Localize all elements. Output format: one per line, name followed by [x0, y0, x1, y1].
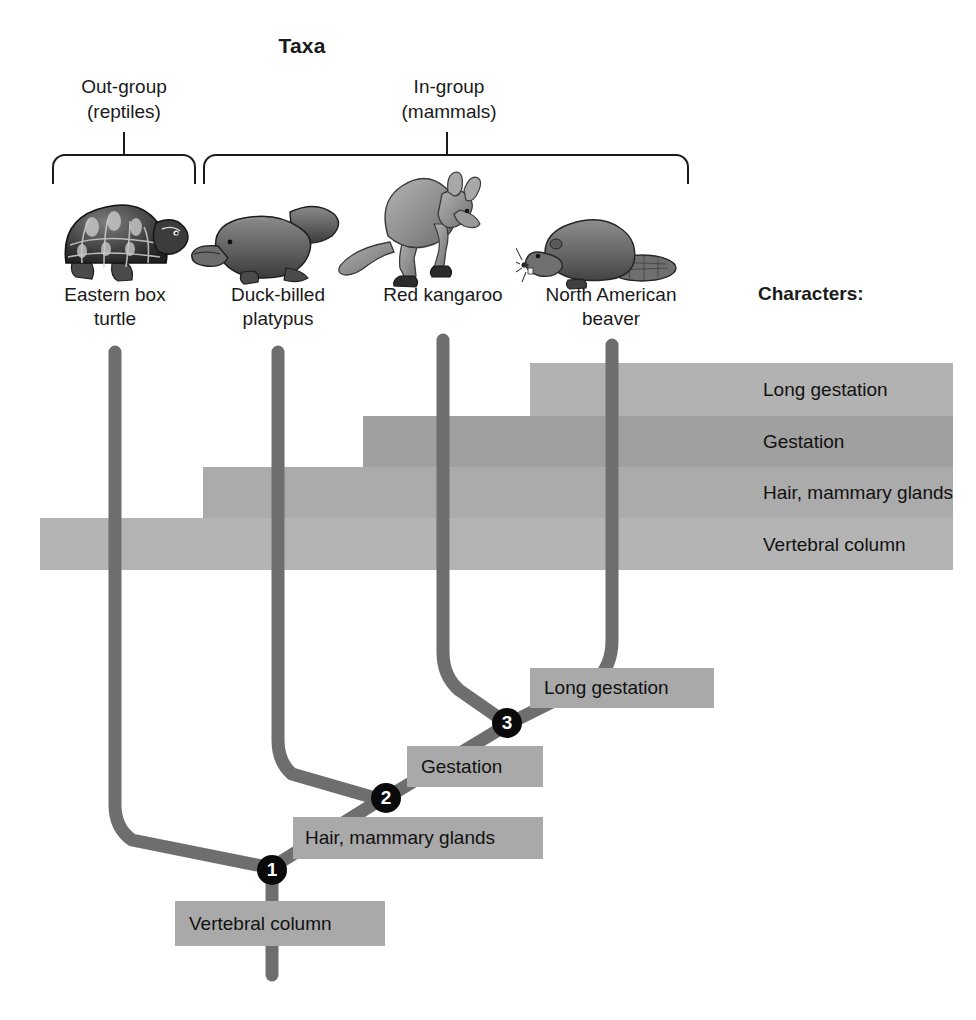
tree-character-box-vertebral-column: Vertebral column: [175, 901, 385, 946]
branch-red-kangaroo: [443, 340, 505, 722]
branch-north-american-beaver: [512, 345, 612, 722]
tree-character-box-label: Gestation: [421, 756, 502, 778]
tree-character-box-gestation: Gestation: [407, 746, 543, 787]
tree-character-box-label: Long gestation: [544, 677, 669, 699]
node-marker-3: 3: [492, 708, 522, 738]
tree-character-box-hair-mammary-glands: Hair, mammary glands: [293, 817, 543, 859]
node-marker-2: 2: [371, 783, 401, 813]
tree-character-box-label: Hair, mammary glands: [305, 827, 495, 849]
tree-character-box-long-gestation: Long gestation: [530, 668, 714, 708]
branch-duck-billed-platypus: [278, 352, 382, 800]
cladogram-figure: Taxa Out-group (reptiles) In-group (mamm…: [0, 0, 976, 1020]
tree-character-box-label: Vertebral column: [189, 913, 332, 935]
cladogram-branches: [0, 0, 976, 1020]
branch-eastern-box-turtle: [115, 352, 262, 866]
node-marker-1: 1: [257, 855, 287, 885]
